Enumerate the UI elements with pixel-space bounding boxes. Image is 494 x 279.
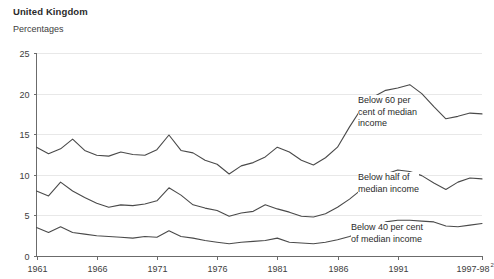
y-tick-label: 10 [19, 171, 29, 181]
x-axis-tick-labels: 19611966197119761981198619911997-982 [27, 262, 494, 274]
annotation-line: income [358, 118, 417, 130]
x-tick-label: 1997-98 [456, 264, 489, 274]
x-tick-label: 1981 [267, 264, 287, 274]
series-annotation-below-40: Below 40 per centof median income [351, 222, 423, 245]
x-tick-label: 1971 [147, 264, 167, 274]
x-tick-label: 1976 [207, 264, 227, 274]
annotation-line: Below 60 per [358, 95, 417, 107]
annotation-line: Below half of [358, 172, 419, 184]
y-tick-label: 15 [19, 130, 29, 140]
annotation-line: cent of median [358, 107, 417, 119]
y-tick-label: 25 [19, 49, 29, 59]
x-tick-label: 1986 [328, 264, 348, 274]
chart-container: United Kingdom Percentages 0510152025 19… [0, 0, 494, 279]
annotation-line: of median income [351, 234, 423, 246]
y-tick-label: 5 [24, 211, 29, 221]
footnote-superscript: 2 [491, 262, 494, 268]
x-tick-label: 1961 [27, 264, 47, 274]
x-tick-label: 1991 [388, 264, 408, 274]
x-tick-label: 1966 [87, 264, 107, 274]
series-annotation-below-60: Below 60 percent of medianincome [358, 95, 417, 130]
y-tick-label: 0 [24, 252, 29, 262]
y-tick-label: 20 [19, 90, 29, 100]
series-annotation-below-half: Below half ofmedian income [358, 172, 419, 195]
annotation-line: Below 40 per cent [351, 222, 423, 234]
annotation-line: median income [358, 184, 419, 196]
y-axis-tick-labels: 0510152025 [19, 49, 29, 262]
